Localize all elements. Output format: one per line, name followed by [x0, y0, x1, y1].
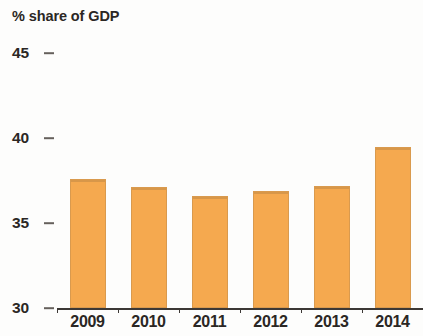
- y-axis-tick-mark-35: [44, 222, 54, 224]
- x-axis-tick-mark-2014: [362, 308, 363, 313]
- bar-2010: [131, 187, 167, 308]
- y-axis-tick-label-35: 35: [12, 214, 29, 232]
- y-axis-tick-label-30: 30: [12, 299, 29, 317]
- x-axis-tick-mark-2011: [179, 308, 180, 313]
- bar-2013: [314, 186, 350, 308]
- x-axis-label-2010: 2010: [131, 313, 165, 331]
- y-axis-tick-mark-30: [44, 307, 54, 309]
- x-axis-label-2014: 2014: [375, 313, 409, 331]
- bar-chart-figure: % share of GDP 45403530 2009201020112012…: [0, 0, 423, 336]
- x-axis-label-2011: 2011: [193, 313, 227, 331]
- y-axis-tick-mark-45: [44, 52, 54, 54]
- x-axis-label-2009: 2009: [70, 313, 104, 331]
- x-axis-tick-mark-2013: [301, 308, 302, 313]
- x-axis-label-2012: 2012: [253, 313, 287, 331]
- bar-2014: [375, 147, 411, 309]
- y-axis-tick-mark-40: [44, 137, 54, 139]
- bar-2012: [253, 191, 289, 308]
- bar-2009: [70, 179, 106, 308]
- x-axis-tick-mark-2009: [57, 308, 58, 313]
- bar-2011: [192, 196, 228, 308]
- plot-area: 45403530 200920102011201220132014: [0, 0, 423, 336]
- y-axis-tick-label-40: 40: [12, 129, 29, 147]
- x-axis-tick-mark-2010: [118, 308, 119, 313]
- y-axis-tick-label-45: 45: [12, 44, 29, 62]
- x-axis-tick-mark-2012: [240, 308, 241, 313]
- x-axis-label-2013: 2013: [314, 313, 348, 331]
